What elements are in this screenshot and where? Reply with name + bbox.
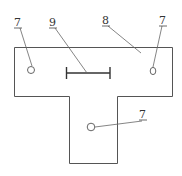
label-7-right: 7 [159, 14, 166, 27]
leader-bottom-7 [95, 121, 142, 127]
leader-9 [55, 28, 87, 73]
bottom-hole [87, 123, 95, 131]
leader-8 [108, 26, 141, 53]
left-hole [28, 67, 35, 74]
right-hole [150, 67, 156, 74]
label-8: 8 [102, 14, 109, 27]
dimension-mark [67, 67, 111, 79]
t-plate-diagram: 7 9 8 7 7 [0, 0, 182, 176]
label-7-left: 7 [14, 16, 21, 29]
leader-right-7 [153, 26, 162, 67]
label-7-bottom: 7 [139, 108, 146, 121]
label-9: 9 [49, 16, 56, 29]
plate-outline [15, 48, 173, 164]
